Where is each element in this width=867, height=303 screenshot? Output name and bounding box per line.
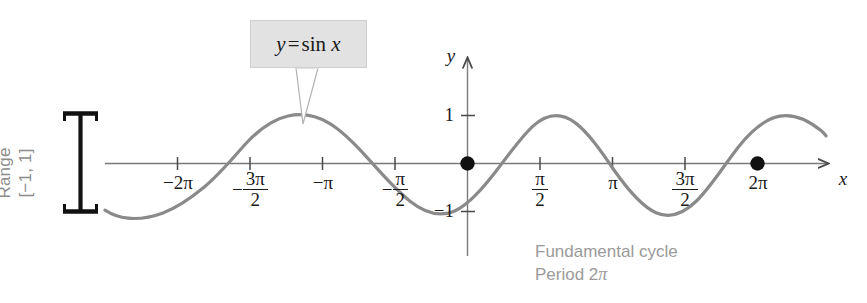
fraction-numerator: π xyxy=(393,169,409,190)
x-tick-label-2pi: 2π xyxy=(732,172,784,194)
callout-operator: = xyxy=(286,32,302,56)
callout-lhs: y xyxy=(276,32,285,56)
x-tick-label-pi-over-2: π2 xyxy=(513,169,567,210)
x-tick-sign: − xyxy=(232,179,243,201)
y-tick-label-1: 1 xyxy=(428,104,454,126)
callout-variable: x xyxy=(331,32,340,56)
range-bracket xyxy=(63,112,98,213)
fraction-denominator: 2 xyxy=(672,190,697,210)
fraction-numerator: 3π xyxy=(243,169,268,190)
fraction-denominator: 2 xyxy=(243,190,268,210)
origin-marker xyxy=(460,156,474,170)
range-label-line1: Range xyxy=(0,118,15,228)
annotation-line2-prefix: Period 2 xyxy=(535,265,598,284)
callout-function: sin xyxy=(302,32,327,56)
fraction-denominator: 2 xyxy=(393,190,409,210)
equation-callout-box: y=sin x xyxy=(250,20,367,68)
annotation-pi-symbol: π xyxy=(598,264,607,284)
x-tick-fraction: π2 xyxy=(532,169,548,210)
x-tick-label-3pi-over-2: 3π2 xyxy=(656,169,714,210)
x-tick-fraction: 3π2 xyxy=(672,169,697,210)
fraction-numerator: 3π xyxy=(672,169,697,190)
annotation-line1: Fundamental cycle xyxy=(535,240,678,263)
equation-callout-text: y=sin x xyxy=(276,32,340,57)
y-axis-label: y xyxy=(441,45,461,67)
fraction-numerator: π xyxy=(532,169,548,190)
range-label: Range [−1, 1] xyxy=(0,118,36,228)
fundamental-cycle-annotation: Fundamental cycle Period 2π xyxy=(535,240,678,286)
plot-canvas xyxy=(0,0,867,303)
annotation-line2: Period 2π xyxy=(535,263,678,286)
x-tick-label-negpi-over-2: −π2 xyxy=(366,169,424,210)
sine-function-figure: Range [−1, 1] y=sin x y x 1 −1 −2π −3π2 … xyxy=(0,0,867,303)
x-tick-label-pi: π xyxy=(592,172,634,194)
fraction-denominator: 2 xyxy=(532,190,548,210)
x-tick-fraction: 3π2 xyxy=(243,169,268,210)
x-tick-sign: − xyxy=(382,179,393,201)
x-tick-label-neg3pi-over-2: −3π2 xyxy=(218,169,282,210)
range-label-line2: [−1, 1] xyxy=(15,118,36,228)
x-tick-label-neg2pi: −2π xyxy=(151,172,205,194)
cycle-end-marker xyxy=(750,156,764,170)
x-tick-label-negpi: −π xyxy=(298,172,348,194)
x-axis-label: x xyxy=(833,168,853,190)
x-tick-fraction: π2 xyxy=(393,169,409,210)
